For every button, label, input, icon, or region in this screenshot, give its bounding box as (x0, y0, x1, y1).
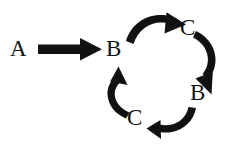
arrow-b1-to-c1-icon (126, 12, 186, 44)
node-label-c2: C (127, 106, 142, 129)
diagram-canvas: A B C B C (0, 0, 235, 150)
arrow-a-to-b-icon (38, 38, 102, 61)
arrow-b2-to-c2-icon (147, 107, 197, 139)
node-label-b2: B (190, 81, 205, 104)
node-label-c1: C (180, 16, 195, 39)
node-label-b1: B (106, 37, 121, 60)
diagram-arrows-layer (0, 0, 235, 150)
node-label-a: A (10, 37, 27, 60)
